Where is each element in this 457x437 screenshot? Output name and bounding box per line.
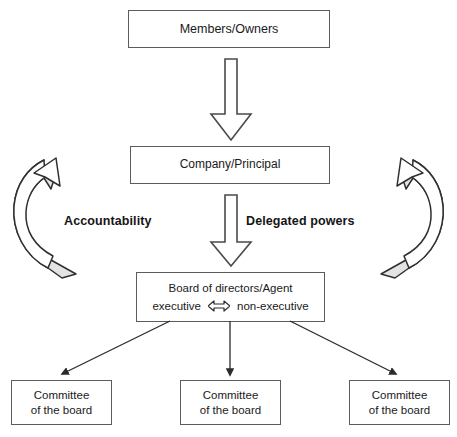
committee-left-line2: of the board: [31, 403, 92, 418]
bidirectional-arrow-icon: [208, 300, 230, 312]
committee-middle-line1: Committee: [203, 388, 259, 403]
node-company-principal-label: Company/Principal: [180, 157, 281, 172]
committee-right-line2: of the board: [369, 403, 430, 418]
node-company-principal: Company/Principal: [130, 146, 330, 184]
label-delegated-powers: Delegated powers: [246, 214, 355, 228]
board-to-committees-arrows: [0, 318, 457, 388]
board-role-executive: executive: [152, 299, 201, 314]
arrow-board-to-committee-left: [62, 321, 170, 374]
node-committee-left: Committee of the board: [11, 380, 112, 425]
board-roles-row: executive non-executive: [152, 299, 308, 314]
label-accountability: Accountability: [64, 214, 152, 228]
curved-arrow-delegated-powers-icon: [371, 156, 453, 280]
arrow-board-to-committee-right: [290, 321, 396, 374]
block-arrow-company-to-board: [204, 194, 258, 268]
node-members-owners-label: Members/Owners: [180, 21, 279, 37]
governance-diagram: Members/Owners Company/Principal Account…: [0, 0, 457, 437]
committee-left-line1: Committee: [34, 388, 90, 403]
board-role-non-executive: non-executive: [237, 299, 309, 314]
committee-right-line1: Committee: [372, 388, 428, 403]
node-board-title: Board of directors/Agent: [168, 281, 292, 296]
block-arrow-members-to-company: [204, 58, 258, 142]
node-committee-right: Committee of the board: [349, 380, 450, 425]
node-members-owners: Members/Owners: [128, 10, 330, 48]
node-board-of-directors: Board of directors/Agent executive non-e…: [136, 272, 325, 322]
node-committee-middle: Committee of the board: [180, 380, 281, 425]
committee-middle-line2: of the board: [200, 403, 261, 418]
